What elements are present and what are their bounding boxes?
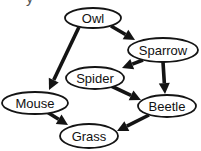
node-label-beetle: Beetle — [149, 99, 186, 114]
node-label-sparrow: Sparrow — [139, 43, 188, 58]
node-label-owl: Owl — [82, 11, 105, 26]
node-spider: Spider — [66, 67, 124, 89]
edge-sparrow-to-beetle — [163, 62, 164, 83]
node-beetle: Beetle — [138, 95, 196, 117]
edge-sparrow-to-spider — [132, 60, 143, 64]
arrowhead-sparrow-to-beetle — [159, 83, 170, 94]
edge-owl-to-sparrow — [111, 26, 125, 34]
node-grass: Grass — [60, 124, 118, 148]
node-label-mouse: Mouse — [15, 96, 54, 111]
edge-beetle-to-grass — [127, 115, 149, 126]
node-label-spider: Spider — [76, 71, 114, 86]
node-mouse: Mouse — [2, 92, 68, 114]
diagram-canvas: OwlSparrowSpiderMouseBeetleGrass — [0, 0, 201, 151]
node-sparrow: Sparrow — [128, 38, 198, 62]
node-label-grass: Grass — [72, 129, 107, 144]
node-owl: Owl — [65, 8, 121, 28]
food-web-diagram: y OwlSparrowSpiderMouseBeetleGrass — [0, 0, 201, 151]
